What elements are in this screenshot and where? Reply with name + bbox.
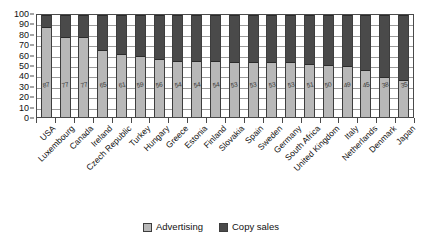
stacked-bar[interactable] bbox=[398, 15, 409, 117]
bar-segment-advertising bbox=[324, 66, 333, 117]
y-axis-tick-mark bbox=[30, 66, 34, 67]
bar-value-label: 77 bbox=[61, 80, 69, 88]
y-axis-tick-mark bbox=[30, 118, 34, 119]
y-axis-tick-mark bbox=[30, 34, 34, 35]
y-axis-tick-label: 30 bbox=[19, 82, 29, 91]
stacked-bar[interactable] bbox=[172, 15, 183, 117]
bar-value-label: 59 bbox=[136, 80, 144, 88]
bar-slot: 61 bbox=[112, 15, 131, 117]
bar-slot: 54 bbox=[169, 15, 188, 117]
x-axis-tick-mark bbox=[320, 118, 321, 123]
stacked-bar[interactable] bbox=[379, 15, 390, 117]
bar-value-label: 45 bbox=[362, 80, 370, 88]
x-axis-tick-mark bbox=[131, 118, 132, 123]
y-axis-tick-mark bbox=[30, 97, 34, 98]
stacked-bar[interactable] bbox=[60, 15, 71, 117]
stacked-bar[interactable] bbox=[41, 15, 52, 117]
bar-value-label: 38 bbox=[381, 80, 389, 88]
bar-slot: 53 bbox=[263, 15, 282, 117]
bar-segment-copy-sales bbox=[324, 15, 333, 66]
bar-segment-copy-sales bbox=[117, 15, 126, 55]
y-axis-tick-label: 0 bbox=[24, 114, 29, 123]
bar-slot: 51 bbox=[300, 15, 319, 117]
bar-value-label: 77 bbox=[80, 80, 88, 88]
bar-segment-copy-sales bbox=[79, 15, 88, 38]
bar-value-label: 54 bbox=[174, 80, 182, 88]
stacked-bar[interactable] bbox=[97, 15, 108, 117]
x-axis-tick-mark bbox=[357, 118, 358, 123]
y-axis-tick-label: 20 bbox=[19, 93, 29, 102]
stacked-bar[interactable] bbox=[135, 15, 146, 117]
bar-segment-advertising bbox=[305, 65, 314, 117]
x-axis-tick-mark bbox=[244, 118, 245, 123]
stacked-bar[interactable] bbox=[78, 15, 89, 117]
bar-segment-advertising bbox=[267, 63, 276, 117]
bar-segment-copy-sales bbox=[361, 15, 370, 71]
y-axis-tick-label: 80 bbox=[19, 30, 29, 39]
bar-value-label: 50 bbox=[324, 80, 332, 88]
bar-segment-copy-sales bbox=[399, 15, 408, 81]
stacked-bar[interactable] bbox=[342, 15, 353, 117]
stacked-bar[interactable] bbox=[210, 15, 221, 117]
y-axis-tick-label: 90 bbox=[19, 20, 29, 29]
bar-slot: 56 bbox=[150, 15, 169, 117]
bar-segment-copy-sales bbox=[230, 15, 239, 63]
plot-area: 8777776561595654545453535353515049453835 bbox=[36, 14, 414, 118]
x-axis-tick-mark bbox=[112, 118, 113, 123]
y-axis-tick-mark bbox=[30, 24, 34, 25]
bar-segment-advertising bbox=[230, 63, 239, 117]
bar-segment-copy-sales bbox=[173, 15, 182, 62]
stacked-bar[interactable] bbox=[154, 15, 165, 117]
legend-item[interactable]: Copy sales bbox=[219, 222, 279, 232]
bar-value-label: 53 bbox=[230, 80, 238, 88]
stacked-bar[interactable] bbox=[229, 15, 240, 117]
bar-value-label: 53 bbox=[249, 80, 257, 88]
stacked-bar[interactable] bbox=[266, 15, 277, 117]
bar-segment-copy-sales bbox=[136, 15, 145, 57]
legend-swatch-icon bbox=[219, 223, 228, 232]
bar-slot: 54 bbox=[187, 15, 206, 117]
bar-segment-copy-sales bbox=[211, 15, 220, 62]
bar-segment-copy-sales bbox=[305, 15, 314, 65]
x-axis-tick-mark bbox=[93, 118, 94, 123]
x-axis-tick-mark bbox=[225, 118, 226, 123]
legend-label: Copy sales bbox=[232, 222, 279, 232]
x-axis-tick-mark bbox=[338, 118, 339, 123]
bar-segment-advertising bbox=[173, 62, 182, 117]
bar-slot: 50 bbox=[319, 15, 338, 117]
stacked-bar[interactable] bbox=[116, 15, 127, 117]
x-axis-tick-mark bbox=[36, 118, 37, 123]
bar-segment-copy-sales bbox=[98, 15, 107, 51]
stacked-bar[interactable] bbox=[191, 15, 202, 117]
x-axis-tick-mark bbox=[187, 118, 188, 123]
y-axis-tick-label: 50 bbox=[19, 62, 29, 71]
stacked-bar[interactable] bbox=[360, 15, 371, 117]
x-axis-labels: USALuxembourgCanadaIrelandCzech Republic… bbox=[36, 124, 414, 214]
legend-label: Advertising bbox=[156, 222, 203, 232]
x-axis-tick-mark bbox=[206, 118, 207, 123]
bar-segment-copy-sales bbox=[249, 15, 258, 63]
y-axis-tick-mark bbox=[30, 86, 34, 87]
legend-item[interactable]: Advertising bbox=[143, 222, 203, 232]
bar-segment-advertising bbox=[286, 63, 295, 117]
bar-slot: 87 bbox=[37, 15, 56, 117]
stacked-bar[interactable] bbox=[323, 15, 334, 117]
x-axis-tick-mark bbox=[414, 118, 415, 123]
stacked-bar[interactable] bbox=[304, 15, 315, 117]
bar-segment-advertising bbox=[42, 28, 51, 117]
y-axis-tick-label: 100 bbox=[14, 10, 29, 19]
bar-slot: 53 bbox=[244, 15, 263, 117]
stacked-bar-chart: 1009080706050403020100 87777765615956545… bbox=[0, 0, 422, 247]
bar-value-label: 54 bbox=[193, 80, 201, 88]
stacked-bar[interactable] bbox=[248, 15, 259, 117]
bar-segment-copy-sales bbox=[286, 15, 295, 63]
bar-segment-copy-sales bbox=[267, 15, 276, 63]
bar-slot: 53 bbox=[281, 15, 300, 117]
bar-slot: 49 bbox=[338, 15, 357, 117]
bar-segment-copy-sales bbox=[343, 15, 352, 67]
bar-segment-copy-sales bbox=[61, 15, 70, 38]
stacked-bar[interactable] bbox=[285, 15, 296, 117]
y-axis-tick-label: 70 bbox=[19, 41, 29, 50]
y-axis-tick-label: 10 bbox=[19, 103, 29, 112]
x-axis-tick-mark bbox=[168, 118, 169, 123]
